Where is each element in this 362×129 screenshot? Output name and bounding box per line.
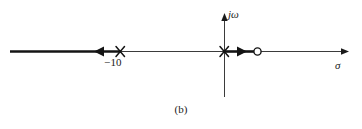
locus-right-direction-arrow-icon <box>237 47 247 57</box>
zero-marker-icon <box>254 48 261 55</box>
imaginary-axis-label: jω <box>228 9 239 20</box>
locus-origin-to-zero <box>224 47 256 57</box>
root-locus-figure: jω σ −10 (b) <box>0 0 362 129</box>
pole-value-label-minus-ten: −10 <box>104 57 122 68</box>
real-axis-arrowhead-icon <box>341 48 349 55</box>
figure-caption: (b) <box>0 104 362 115</box>
imaginary-axis-arrowhead-icon <box>221 13 227 21</box>
real-axis-label: σ <box>335 60 340 71</box>
locus-left-direction-arrow-icon <box>94 47 104 57</box>
locus-left-branch <box>10 47 121 57</box>
